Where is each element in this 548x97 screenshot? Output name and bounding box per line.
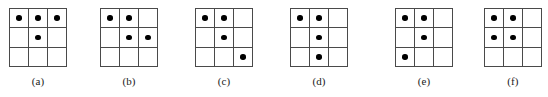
dot-grid-d: [290, 8, 348, 67]
grid-cell-empty-r3c2: [120, 48, 139, 67]
grid-cell-empty-r3c1: [485, 48, 504, 67]
grid-cell-empty-r2c1: [10, 28, 29, 47]
grid-cell-empty-r3c1: [196, 48, 215, 67]
grid-cell-dot-r1c2: [120, 9, 139, 28]
grid-cell-dot-r2c3: [139, 28, 158, 47]
grid-cell-empty-r3c2: [29, 48, 48, 67]
grid-cell-dot-r1c2: [310, 9, 329, 28]
grid-cell-dot-r3c3: [234, 48, 253, 67]
grid-cell-empty-r1c3: [329, 9, 348, 28]
grid-cell-empty-r2c1: [196, 28, 215, 47]
grid-cell-empty-r3c3: [523, 48, 542, 67]
grid-cell-empty-r2c3: [434, 28, 453, 47]
dot-grid-e: [395, 8, 453, 67]
grid-cell-empty-r2c3: [523, 28, 542, 47]
panel-c: (c): [186, 0, 278, 97]
grid-cell-empty-r2c3: [48, 28, 67, 47]
grid-cell-empty-r3c3: [139, 48, 158, 67]
grid-cell-empty-r2c3: [329, 28, 348, 47]
grid-cell-dot-r1c1: [396, 9, 415, 28]
dot-grid-figure: (a)(b)(c)(d)(e)(f): [0, 0, 548, 97]
panel-label-d: (d): [281, 74, 357, 88]
grid-cell-empty-r1c3: [434, 9, 453, 28]
grid-cell-dot-r1c1: [196, 9, 215, 28]
grid-cell-dot-r2c2: [120, 28, 139, 47]
grid-cell-empty-r1c3: [523, 9, 542, 28]
grid-cell-dot-r3c2: [310, 48, 329, 67]
grid-cell-empty-r1c3: [139, 9, 158, 28]
grid-cell-dot-r1c1: [291, 9, 310, 28]
grid-cell-empty-r3c1: [291, 48, 310, 67]
grid-cell-empty-r2c3: [234, 28, 253, 47]
panel-label-a: (a): [0, 74, 76, 88]
grid-cell-dot-r1c3: [48, 9, 67, 28]
grid-cell-dot-r1c1: [485, 9, 504, 28]
grid-cell-dot-r2c1: [485, 28, 504, 47]
dot-grid-a: [9, 8, 67, 67]
grid-cell-dot-r1c2: [29, 9, 48, 28]
panel-e: (e): [386, 0, 478, 97]
panel-label-c: (c): [186, 74, 262, 88]
grid-cell-empty-r2c1: [291, 28, 310, 47]
grid-cell-empty-r3c2: [415, 48, 434, 67]
grid-cell-empty-r3c1: [101, 48, 120, 67]
grid-cell-dot-r2c2: [215, 28, 234, 47]
grid-cell-dot-r2c2: [415, 28, 434, 47]
grid-cell-dot-r2c2: [310, 28, 329, 47]
grid-cell-dot-r3c1: [396, 48, 415, 67]
dot-grid-f: [484, 8, 542, 67]
grid-cell-empty-r3c2: [504, 48, 523, 67]
panel-label-e: (e): [386, 74, 462, 88]
grid-cell-empty-r3c1: [10, 48, 29, 67]
panel-d: (d): [281, 0, 373, 97]
grid-cell-dot-r1c1: [101, 9, 120, 28]
grid-cell-dot-r2c2: [504, 28, 523, 47]
grid-cell-dot-r1c1: [10, 9, 29, 28]
grid-cell-empty-r3c3: [434, 48, 453, 67]
grid-cell-empty-r3c3: [48, 48, 67, 67]
panel-a: (a): [0, 0, 92, 97]
grid-cell-dot-r1c2: [504, 9, 523, 28]
grid-cell-empty-r3c2: [215, 48, 234, 67]
grid-cell-dot-r1c2: [215, 9, 234, 28]
grid-cell-empty-r3c3: [329, 48, 348, 67]
panel-b: (b): [91, 0, 183, 97]
grid-cell-empty-r2c1: [101, 28, 120, 47]
grid-cell-dot-r1c2: [415, 9, 434, 28]
panel-f: (f): [475, 0, 548, 97]
grid-cell-empty-r2c1: [396, 28, 415, 47]
panel-label-f: (f): [475, 74, 548, 88]
dot-grid-b: [100, 8, 158, 67]
grid-cell-dot-r2c2: [29, 28, 48, 47]
grid-cell-empty-r1c3: [234, 9, 253, 28]
dot-grid-c: [195, 8, 253, 67]
panel-label-b: (b): [91, 74, 167, 88]
